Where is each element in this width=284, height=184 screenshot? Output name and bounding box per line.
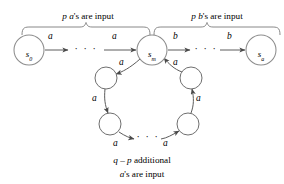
edge-label-s0-to-dots: a (48, 31, 53, 41)
ellipsis-bottom: · · · (131, 131, 165, 142)
bottom-caption-line-2: a's are input (62, 166, 222, 180)
edge-label-dots-to-sm: a (112, 31, 117, 41)
edge-label-dots-to-sn: b (227, 31, 232, 41)
state-s-n-subscript: a (261, 56, 264, 62)
ellipsis-left: · · · (69, 43, 103, 54)
ellipsis-right: · · · (191, 43, 221, 54)
bottom-caption: q – p additional a's are input (62, 152, 222, 180)
bottom-caption-line-1-italic: q – p (113, 155, 131, 165)
bottom-caption-line-1-roman: additional (132, 155, 171, 165)
loop-node-lower-right[interactable] (177, 113, 199, 135)
loop-node-upper-left[interactable] (95, 67, 117, 89)
top-right-brace-label-italic: p b (191, 11, 202, 21)
state-s-m-subscript: m (152, 56, 156, 62)
edge-label-loop-upper-left-to-lower-left: a (92, 93, 97, 103)
edge-label-loop-upper-right-to-sm: a (173, 57, 178, 67)
edge-label-loop-lower-left-to-dots: a (113, 138, 118, 148)
state-label-s-m: sm (137, 43, 167, 62)
top-left-brace-label: p a's are input (24, 5, 152, 23)
loop-node-lower-left[interactable] (99, 113, 121, 135)
edge-label-sm-to-loop-upper-left: a (119, 57, 124, 67)
top-left-brace-label-roman: 's are input (74, 11, 114, 21)
edge-loop-upper-left-to-lower-left (105, 89, 108, 113)
bottom-caption-line-2-roman: 's are input (124, 169, 164, 179)
loop-node-upper-right[interactable] (180, 67, 202, 89)
edge-loop-lower-right-to-upper-right (191, 89, 193, 113)
figure-canvas: p a's are input p b's are input s0 sm sa… (0, 0, 284, 184)
edge-label-loop-lower-right-to-upper-right: a (196, 93, 201, 103)
state-label-s-0: s0 (14, 43, 44, 62)
state-s-0-subscript: 0 (29, 56, 32, 62)
top-right-brace-label-roman: 's are input (203, 11, 243, 21)
brace-left (22, 23, 150, 36)
state-label-s-n: sa (246, 43, 276, 62)
edge-label-sm-to-dots: b (173, 31, 178, 41)
top-right-brace-label: p b's are input (152, 5, 282, 23)
bottom-caption-line-1: q – p additional (62, 152, 222, 166)
top-left-brace-label-italic: p a (62, 11, 73, 21)
edge-label-loop-dots-to-lower-right: a (163, 138, 168, 148)
